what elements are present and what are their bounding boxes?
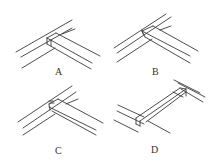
panel-a-drawing bbox=[16, 20, 100, 69]
panel-a-label: A bbox=[55, 67, 62, 77]
panel-d-drawing bbox=[114, 80, 205, 133]
panel-b-label: B bbox=[152, 67, 159, 77]
panel-c-label: C bbox=[55, 146, 62, 156]
joints-diagram bbox=[0, 0, 218, 160]
panel-b-drawing bbox=[114, 14, 198, 63]
panel-d-label: D bbox=[151, 145, 158, 155]
panel-c-drawing bbox=[18, 86, 103, 135]
